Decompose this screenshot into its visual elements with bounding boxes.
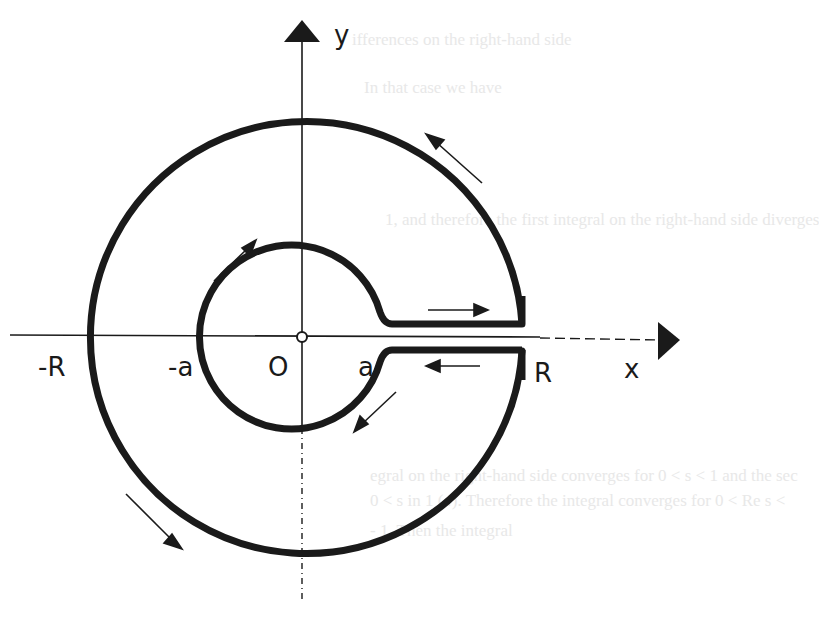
origin-marker-icon (297, 332, 307, 342)
origin-label: O (268, 354, 288, 380)
arrow-inner-bottom-line (362, 392, 396, 424)
x-axis-label: x (624, 356, 639, 382)
arrow-down-left-icon (354, 416, 368, 432)
y-axis-arrowhead-icon (284, 20, 320, 42)
y-axis-label: y (334, 22, 349, 48)
arrow-down-right-icon (164, 534, 182, 549)
neg-R-label: -R (38, 354, 65, 380)
x-axis-arrowhead-icon (658, 322, 680, 360)
a-label: a (358, 354, 374, 380)
R-label: R (534, 360, 552, 386)
x-axis-dashed (540, 338, 660, 340)
arrow-outer-top-line (436, 142, 482, 183)
direction-arrows (126, 134, 488, 549)
arrow-left-icon (426, 360, 440, 372)
neg-a-label: -a (168, 354, 193, 380)
arrow-right-icon (474, 304, 488, 316)
arrow-inner-top-line (214, 248, 248, 281)
